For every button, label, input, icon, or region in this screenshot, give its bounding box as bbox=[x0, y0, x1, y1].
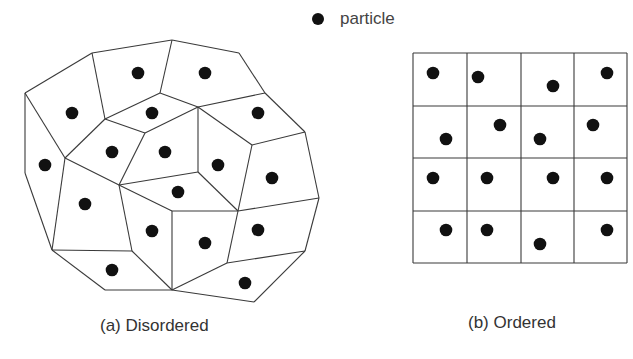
particle-icon bbox=[106, 146, 119, 159]
cell-edge bbox=[65, 158, 119, 185]
particle-icon bbox=[534, 133, 547, 146]
disordered-voronoi-diagram bbox=[25, 40, 319, 302]
particle-icon bbox=[601, 224, 614, 237]
particle-icon bbox=[132, 67, 145, 80]
cell-edge bbox=[160, 93, 198, 107]
particle-icon bbox=[146, 107, 159, 120]
cell-edge bbox=[25, 173, 52, 250]
cell-edge bbox=[265, 93, 305, 132]
cell-edge bbox=[65, 119, 105, 158]
figure-canvas bbox=[0, 0, 633, 359]
particle-icon bbox=[199, 67, 212, 80]
cell-edge bbox=[160, 40, 172, 93]
cell-edge bbox=[52, 158, 65, 250]
particle-icon bbox=[146, 225, 159, 238]
particle-icon bbox=[601, 67, 614, 80]
cell-edge bbox=[52, 250, 105, 290]
particle-icon bbox=[239, 277, 252, 290]
particle-icon bbox=[481, 224, 494, 237]
cell-edge bbox=[132, 251, 172, 290]
cell-edge bbox=[198, 107, 252, 145]
particle-icon bbox=[440, 224, 453, 237]
caption-disordered: (a) Disordered bbox=[100, 316, 209, 336]
particle-icon bbox=[172, 186, 185, 199]
particle-legend-icon bbox=[312, 13, 324, 25]
particle-icon bbox=[472, 71, 485, 84]
cell-edge bbox=[172, 263, 227, 290]
cell-edge bbox=[119, 185, 172, 211]
cell-edge bbox=[105, 119, 145, 133]
particle-icon bbox=[79, 198, 92, 211]
legend: particle bbox=[312, 7, 395, 31]
cell-edge bbox=[252, 132, 305, 145]
cell-edge bbox=[238, 145, 252, 211]
particle-icon bbox=[159, 146, 172, 159]
cell-edge bbox=[25, 53, 92, 93]
cell-edge bbox=[227, 211, 238, 263]
particle-icon bbox=[440, 133, 453, 146]
particle-icon bbox=[266, 172, 279, 185]
cell-edge bbox=[198, 93, 265, 107]
particle-icon bbox=[252, 224, 265, 237]
cell-edge bbox=[239, 53, 265, 93]
cell-edge bbox=[305, 198, 319, 251]
particle-icon bbox=[252, 107, 265, 120]
cell-edge bbox=[25, 93, 65, 158]
cell-edge bbox=[172, 40, 239, 53]
cell-edge bbox=[305, 132, 319, 198]
cell-edge bbox=[92, 40, 172, 53]
cell-edge bbox=[254, 251, 305, 302]
particle-icon bbox=[427, 67, 440, 80]
particle-icon bbox=[494, 119, 507, 132]
cell-edge bbox=[198, 172, 238, 211]
cell-edge bbox=[92, 53, 105, 119]
particle-icon bbox=[106, 264, 119, 277]
particle-icon bbox=[212, 159, 225, 172]
particle-icon bbox=[547, 80, 560, 93]
legend-label: particle bbox=[340, 9, 395, 29]
particle-icon bbox=[587, 119, 600, 132]
particle-icon bbox=[66, 107, 79, 120]
particle-icon bbox=[547, 172, 560, 185]
cell-edge bbox=[238, 198, 319, 211]
caption-ordered: (b) Ordered bbox=[468, 313, 556, 333]
ordered-grid-diagram bbox=[413, 53, 627, 263]
particle-icon bbox=[199, 237, 212, 250]
cell-edge bbox=[119, 185, 132, 251]
cell-edge bbox=[52, 250, 132, 251]
particle-icon bbox=[427, 172, 440, 185]
cell-edge bbox=[172, 290, 254, 302]
particle-icon bbox=[601, 172, 614, 185]
particle-icon bbox=[481, 172, 494, 185]
particle-icon bbox=[534, 238, 547, 251]
cell-edge bbox=[119, 172, 198, 185]
particle-icon bbox=[39, 159, 52, 172]
cell-edge bbox=[227, 251, 305, 263]
cell-edge bbox=[119, 133, 145, 185]
